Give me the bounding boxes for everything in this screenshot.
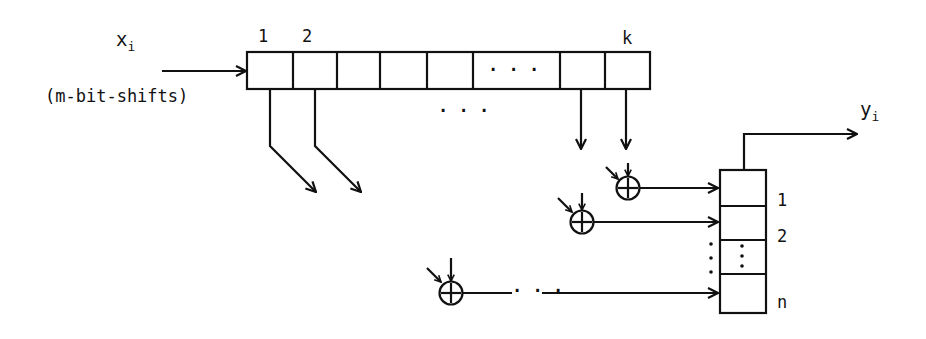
xor-gate-2 (558, 193, 718, 234)
xor-gate-n (427, 258, 718, 305)
register-inner-ellipsis: . . . (488, 57, 539, 74)
output-row-label-1: 1 (777, 192, 787, 209)
cell-label-k: k (622, 30, 632, 47)
output-row-label-2: 2 (777, 228, 787, 245)
tap-arrow-cell-1 (270, 89, 316, 192)
xor-gate-1 (606, 163, 718, 200)
output-arrow (744, 134, 857, 170)
output-label: yi (860, 100, 879, 119)
shift-register (247, 52, 650, 89)
output-register (720, 170, 766, 313)
ellipsis-dots (709, 242, 744, 274)
input-label: xi (116, 30, 135, 49)
tap-arrow-cell-2 (315, 89, 361, 192)
line-ellipsis: · · · (512, 283, 563, 300)
diagram-canvas (0, 0, 926, 339)
input-note: (m-bit-shifts) (45, 88, 188, 105)
output-row-label-n: n (777, 294, 787, 311)
cell-label-1: 1 (258, 28, 268, 45)
taps-ellipsis: . . . (438, 98, 489, 115)
cell-label-2: 2 (302, 28, 312, 45)
